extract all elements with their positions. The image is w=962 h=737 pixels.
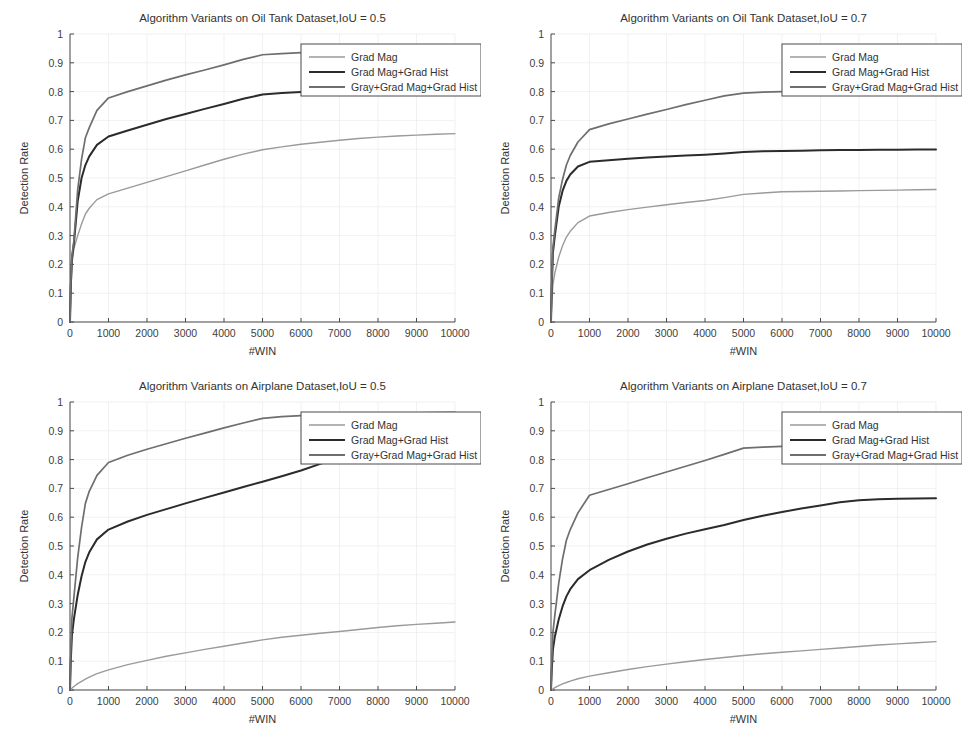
y-tick-label: 0.5 bbox=[48, 540, 63, 552]
x-tick-label: 0 bbox=[548, 327, 554, 339]
x-tick-label: 2000 bbox=[135, 327, 159, 339]
x-tick-label: 5000 bbox=[732, 695, 756, 707]
x-tick-label: 9000 bbox=[886, 695, 910, 707]
legend-label-2: Gray+Grad Mag+Grad Hist bbox=[351, 449, 477, 461]
y-tick-label: 0.7 bbox=[529, 114, 544, 126]
chart-panel-oil-tank-iou07: 0100020003000400050006000700080009000100… bbox=[481, 0, 962, 368]
x-tick-label: 10000 bbox=[440, 327, 469, 339]
x-tick-label: 2000 bbox=[616, 695, 640, 707]
y-tick-label: 0.3 bbox=[529, 230, 544, 242]
x-tick-label: 5000 bbox=[251, 695, 275, 707]
y-tick-label: 0.4 bbox=[48, 201, 63, 213]
y-tick-label: 0.4 bbox=[48, 569, 63, 581]
legend-label-1: Grad Mag+Grad Hist bbox=[832, 434, 929, 446]
x-tick-label: 6000 bbox=[289, 695, 313, 707]
y-tick-label: 1 bbox=[538, 28, 544, 40]
y-axis-label: Detection Rate bbox=[499, 142, 511, 215]
figure-grid: 0100020003000400050006000700080009000100… bbox=[0, 0, 962, 737]
legend: Grad MagGrad Mag+Grad HistGray+Grad Mag+… bbox=[782, 44, 962, 96]
chart-panel-airplane-iou07: 0100020003000400050006000700080009000100… bbox=[481, 368, 962, 736]
chart-svg: 0100020003000400050006000700080009000100… bbox=[481, 0, 962, 368]
y-tick-label: 0.3 bbox=[48, 598, 63, 610]
x-tick-label: 3000 bbox=[174, 695, 198, 707]
y-tick-label: 0.9 bbox=[529, 425, 544, 437]
y-axis-label: Detection Rate bbox=[18, 510, 30, 583]
x-tick-label: 7000 bbox=[328, 695, 352, 707]
y-tick-label: 0.9 bbox=[48, 425, 63, 437]
chart-title: Algorithm Variants on Airplane Dataset,I… bbox=[139, 380, 386, 392]
y-tick-label: 0.2 bbox=[529, 626, 544, 638]
x-tick-label: 8000 bbox=[847, 327, 871, 339]
x-tick-label: 10000 bbox=[440, 695, 469, 707]
x-axis-label: #WIN bbox=[249, 713, 277, 725]
y-tick-label: 0.8 bbox=[48, 86, 63, 98]
x-tick-label: 6000 bbox=[770, 695, 794, 707]
y-tick-label: 0.8 bbox=[48, 454, 63, 466]
legend-label-0: Grad Mag bbox=[351, 51, 398, 63]
y-tick-label: 0 bbox=[57, 316, 63, 328]
x-tick-label: 4000 bbox=[212, 327, 236, 339]
y-axis-label: Detection Rate bbox=[499, 510, 511, 583]
y-tick-label: 0.6 bbox=[529, 511, 544, 523]
x-tick-label: 2000 bbox=[135, 695, 159, 707]
x-tick-label: 8000 bbox=[366, 327, 390, 339]
y-tick-label: 0.1 bbox=[529, 655, 544, 667]
x-tick-label: 0 bbox=[548, 695, 554, 707]
y-tick-label: 0.9 bbox=[529, 57, 544, 69]
x-axis-label: #WIN bbox=[249, 345, 277, 357]
legend-label-2: Gray+Grad Mag+Grad Hist bbox=[832, 81, 958, 93]
y-tick-label: 0.1 bbox=[48, 655, 63, 667]
legend-label-1: Grad Mag+Grad Hist bbox=[832, 66, 929, 78]
chart-svg: 0100020003000400050006000700080009000100… bbox=[481, 368, 962, 736]
x-tick-label: 5000 bbox=[251, 327, 275, 339]
x-tick-label: 7000 bbox=[809, 327, 833, 339]
legend: Grad MagGrad Mag+Grad HistGray+Grad Mag+… bbox=[782, 412, 962, 464]
y-tick-label: 1 bbox=[538, 396, 544, 408]
y-tick-label: 0.4 bbox=[529, 569, 544, 581]
legend: Grad MagGrad Mag+Grad HistGray+Grad Mag+… bbox=[301, 44, 481, 96]
y-tick-label: 1 bbox=[57, 28, 63, 40]
y-tick-label: 0.1 bbox=[48, 287, 63, 299]
x-tick-label: 7000 bbox=[328, 327, 352, 339]
y-tick-label: 0.6 bbox=[48, 143, 63, 155]
y-tick-label: 0.6 bbox=[529, 143, 544, 155]
y-tick-label: 1 bbox=[57, 396, 63, 408]
x-tick-label: 1000 bbox=[578, 327, 602, 339]
legend-label-2: Gray+Grad Mag+Grad Hist bbox=[832, 449, 958, 461]
chart-title: Algorithm Variants on Oil Tank Dataset,I… bbox=[620, 12, 867, 24]
x-tick-label: 6000 bbox=[289, 327, 313, 339]
y-tick-label: 0.4 bbox=[529, 201, 544, 213]
x-tick-label: 10000 bbox=[921, 327, 950, 339]
y-tick-label: 0.5 bbox=[529, 172, 544, 184]
chart-svg: 0100020003000400050006000700080009000100… bbox=[0, 368, 481, 736]
y-tick-label: 0 bbox=[538, 684, 544, 696]
chart-panel-oil-tank-iou05: 0100020003000400050006000700080009000100… bbox=[0, 0, 481, 368]
x-tick-label: 0 bbox=[67, 695, 73, 707]
y-tick-label: 0.7 bbox=[48, 114, 63, 126]
x-tick-label: 9000 bbox=[405, 327, 429, 339]
x-tick-label: 10000 bbox=[921, 695, 950, 707]
x-tick-label: 1000 bbox=[97, 327, 121, 339]
x-tick-label: 3000 bbox=[655, 327, 679, 339]
x-tick-label: 3000 bbox=[174, 327, 198, 339]
legend: Grad MagGrad Mag+Grad HistGray+Grad Mag+… bbox=[301, 412, 481, 464]
x-tick-label: 7000 bbox=[809, 695, 833, 707]
y-tick-label: 0.5 bbox=[529, 540, 544, 552]
y-tick-label: 0.6 bbox=[48, 511, 63, 523]
y-tick-label: 0.5 bbox=[48, 172, 63, 184]
chart-panel-airplane-iou05: 0100020003000400050006000700080009000100… bbox=[0, 368, 481, 736]
x-axis-label: #WIN bbox=[730, 713, 758, 725]
y-tick-label: 0.3 bbox=[529, 598, 544, 610]
legend-label-1: Grad Mag+Grad Hist bbox=[351, 434, 448, 446]
chart-svg: 0100020003000400050006000700080009000100… bbox=[0, 0, 481, 368]
legend-label-0: Grad Mag bbox=[832, 419, 879, 431]
legend-label-0: Grad Mag bbox=[351, 419, 398, 431]
y-tick-label: 0.8 bbox=[529, 86, 544, 98]
x-tick-label: 9000 bbox=[886, 327, 910, 339]
legend-label-1: Grad Mag+Grad Hist bbox=[351, 66, 448, 78]
y-tick-label: 0.8 bbox=[529, 454, 544, 466]
x-axis-label: #WIN bbox=[730, 345, 758, 357]
chart-title: Algorithm Variants on Oil Tank Dataset,I… bbox=[139, 12, 386, 24]
x-tick-label: 0 bbox=[67, 327, 73, 339]
y-tick-label: 0 bbox=[538, 316, 544, 328]
